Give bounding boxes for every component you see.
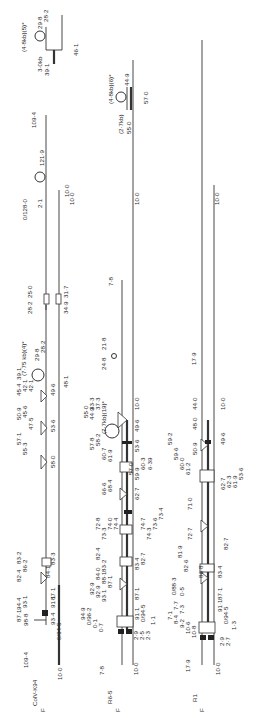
svg-text:7·8: 7·8 xyxy=(107,276,114,286)
svg-text:39·1: 39·1 xyxy=(15,367,22,380)
map-name-colv-k94: ColV-K94 xyxy=(31,679,38,706)
svg-text:2·1: 2·1 xyxy=(36,198,43,208)
svg-text:45·6: 45·6 xyxy=(21,405,28,418)
svg-text:34·9: 34·9 xyxy=(62,301,69,314)
svg-text:72·7: 72·7 xyxy=(186,527,193,540)
svg-text:2·3: 2·3 xyxy=(144,630,151,640)
map-name-r1: R1 xyxy=(191,694,198,702)
svg-text:F: F xyxy=(198,708,205,712)
inset5-label: (4·8kb)(5)* xyxy=(20,22,27,52)
svg-text:28·2: 28·2 xyxy=(26,301,33,314)
svg-text:0/94·5: 0/94·5 xyxy=(222,606,229,624)
svg-text:F: F xyxy=(114,708,121,712)
svg-text:(2·7kb): (2·7kb) xyxy=(117,114,124,134)
svg-text:44·9: 44·9 xyxy=(123,73,130,86)
svg-text:17·9: 17·9 xyxy=(190,352,197,365)
svg-text:10·0: 10·0 xyxy=(213,192,220,205)
svg-text:53·6: 53·6 xyxy=(49,419,56,432)
svg-text:0/88·3: 0/88·3 xyxy=(170,577,177,595)
svg-text:55·0: 55·0 xyxy=(125,121,132,134)
svg-text:60·3: 60·3 xyxy=(139,457,146,470)
svg-text:28·2: 28·2 xyxy=(42,9,49,22)
svg-text:10·0: 10·0 xyxy=(219,397,226,410)
svg-text:0·5: 0·5 xyxy=(178,586,185,596)
svg-text:82·7: 82·7 xyxy=(222,537,229,550)
svg-text:44·0: 44·0 xyxy=(191,397,198,410)
svg-text:91·1: 91·1 xyxy=(49,595,56,608)
svg-text:121·9: 121·9 xyxy=(38,150,45,166)
svg-text:68·4: 68·4 xyxy=(106,479,113,492)
svg-text:49·6: 49·6 xyxy=(219,432,226,445)
inset6-label: (4·8kb)(6)* xyxy=(107,74,114,104)
svg-text:82·6: 82·6 xyxy=(182,559,189,572)
svg-text:24·8: 24·8 xyxy=(100,357,107,370)
svg-text:(7·7kb)(19)*: (7·7kb)(19)* xyxy=(100,400,107,434)
svg-text:31·7: 31·7 xyxy=(62,285,69,298)
svg-text:58·0: 58·0 xyxy=(49,455,56,468)
svg-text:47·5: 47·5 xyxy=(27,417,34,430)
svg-text:83·3: 83·3 xyxy=(49,552,56,565)
svg-text:17·9: 17·9 xyxy=(184,659,191,672)
svg-text:81·9: 81·9 xyxy=(176,545,183,558)
figure: (4·8kb)(5)* 3·0kb 29·8 28·2 39·1 46·1 (4… xyxy=(0,0,259,718)
svg-text:7·8: 7·8 xyxy=(98,665,105,675)
svg-text:6·39: 6·39 xyxy=(146,457,153,470)
svg-text:93·1: 93·1 xyxy=(21,595,28,608)
svg-text:48·0: 48·0 xyxy=(191,417,198,430)
svg-text:74·4: 74·4 xyxy=(112,517,119,530)
svg-text:83·4: 83·4 xyxy=(216,565,223,578)
svg-text:25·0: 25·0 xyxy=(26,285,33,298)
svg-text:10·0: 10·0 xyxy=(214,662,221,675)
svg-text:21·8: 21·8 xyxy=(100,337,107,350)
svg-text:49·6: 49·6 xyxy=(49,383,56,396)
svg-text:48·1: 48·1 xyxy=(62,375,69,388)
svg-text:42·1: 42·1 xyxy=(27,379,34,392)
svg-text:10·0: 10·0 xyxy=(68,192,75,205)
svg-text:73·4: 73·4 xyxy=(157,507,164,520)
map-colv-k94 xyxy=(32,115,61,665)
svg-text:0/94·5: 0/94·5 xyxy=(55,622,62,640)
svg-text:71·0: 71·0 xyxy=(186,497,193,510)
svg-text:28·2: 28·2 xyxy=(39,340,46,353)
svg-text:57·0: 57·0 xyxy=(142,91,149,104)
svg-text:44·9: 44·9 xyxy=(88,407,95,420)
svg-text:1·1: 1·1 xyxy=(149,615,156,625)
svg-text:53·6: 53·6 xyxy=(237,467,244,480)
svg-text:53·6: 53·6 xyxy=(133,439,140,452)
svg-text:86·2: 86·2 xyxy=(21,559,28,572)
svg-text:109·4: 109·4 xyxy=(30,112,37,128)
svg-text:83·2: 83·2 xyxy=(100,559,107,572)
svg-text:109·4: 109·4 xyxy=(22,652,29,668)
svg-text:10·8: 10·8 xyxy=(190,625,197,638)
svg-text:93·1: 93·1 xyxy=(100,589,107,602)
svg-text:86·8: 86·8 xyxy=(197,565,204,578)
svg-text:F: F xyxy=(39,708,46,712)
svg-text:82·4: 82·4 xyxy=(94,547,101,560)
map-r6-5 xyxy=(105,60,133,665)
map-name-r6-5: R6-5 xyxy=(106,690,113,704)
svg-text:10·0: 10·0 xyxy=(133,192,140,205)
svg-text:10·0: 10·0 xyxy=(56,667,63,680)
svg-text:1·3: 1·3 xyxy=(230,620,237,630)
svg-text:87·1: 87·1 xyxy=(15,609,22,622)
svg-text:84·1: 84·1 xyxy=(44,565,51,578)
svg-text:46·1: 46·1 xyxy=(72,43,79,56)
plasmid-maps-diagram: (4·8kb)(5)* 3·0kb 29·8 28·2 39·1 46·1 (4… xyxy=(0,0,259,718)
svg-text:10·0: 10·0 xyxy=(133,397,140,410)
svg-text:59·2: 59·2 xyxy=(166,432,173,445)
svg-text:62·7: 62·7 xyxy=(133,487,140,500)
svg-text:98·8: 98·8 xyxy=(22,613,29,626)
svg-text:82·7: 82·7 xyxy=(139,552,146,565)
svg-text:3·0kb: 3·0kb xyxy=(36,56,43,72)
svg-text:10·0: 10·0 xyxy=(132,662,139,675)
labels: (4·8kb)(5)* 3·0kb 29·8 28·2 39·1 46·1 (4… xyxy=(15,9,244,712)
svg-text:0/94·5: 0/94·5 xyxy=(139,604,146,622)
svg-text:87·1: 87·1 xyxy=(133,587,140,600)
svg-text:83·4: 83·4 xyxy=(133,557,140,570)
svg-text:61·2: 61·2 xyxy=(184,462,191,475)
svg-text:50·9: 50·9 xyxy=(191,442,198,455)
svg-text:7·3: 7·3 xyxy=(178,604,185,614)
svg-text:39·1: 39·1 xyxy=(43,63,50,76)
svg-text:55·3: 55·3 xyxy=(21,442,28,455)
svg-text:58·2: 58·2 xyxy=(94,433,101,446)
